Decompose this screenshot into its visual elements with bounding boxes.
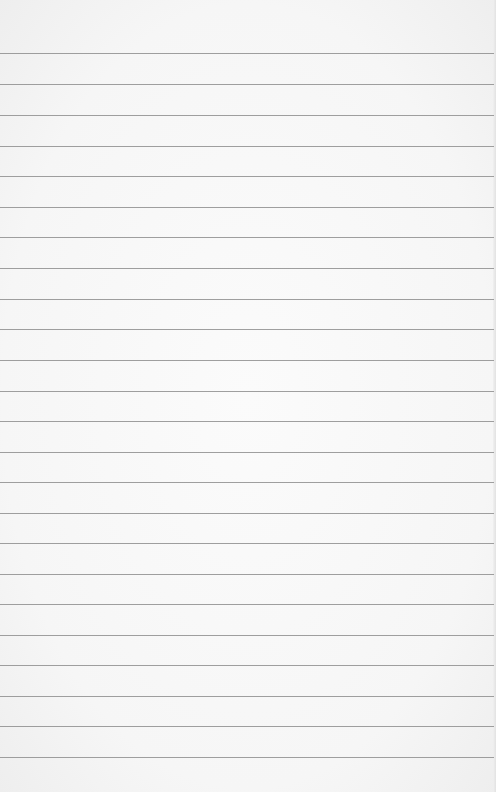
ruled-line <box>0 726 494 727</box>
ruled-line <box>0 635 494 636</box>
ruled-line <box>0 391 494 392</box>
ruled-line <box>0 53 494 54</box>
ruled-line <box>0 360 494 361</box>
ruled-line <box>0 268 494 269</box>
ruled-line <box>0 665 494 666</box>
ruled-line <box>0 757 494 758</box>
ruled-line <box>0 115 494 116</box>
ruled-line <box>0 513 494 514</box>
ruled-line <box>0 574 494 575</box>
ruled-line <box>0 482 494 483</box>
ruled-line <box>0 299 494 300</box>
ruled-line <box>0 421 494 422</box>
ruled-line <box>0 84 494 85</box>
ruled-line <box>0 604 494 605</box>
ruled-line <box>0 329 494 330</box>
ruled-line <box>0 176 494 177</box>
ruled-line <box>0 543 494 544</box>
ruled-line <box>0 146 494 147</box>
ruled-paper <box>0 0 496 792</box>
ruled-line <box>0 207 494 208</box>
ruled-line <box>0 696 494 697</box>
ruled-line <box>0 237 494 238</box>
ruled-line <box>0 452 494 453</box>
